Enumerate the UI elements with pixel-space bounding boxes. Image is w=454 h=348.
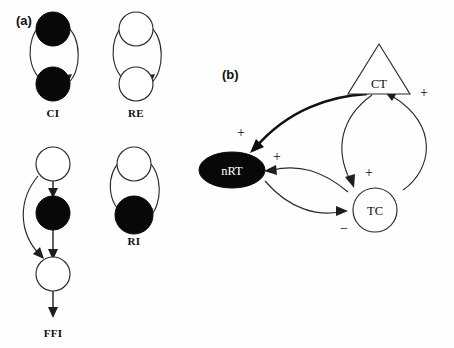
edge-ct-to-nrt — [256, 94, 367, 147]
edge-nrt-to-tc-group: − — [265, 181, 348, 236]
sign-nrt-to-tc: − — [340, 221, 348, 236]
node-re-top — [119, 12, 153, 46]
node-re-bottom — [119, 67, 153, 101]
node-tc: TC — [353, 188, 397, 232]
node-ct: CT — [348, 44, 410, 94]
arrowhead-tc-to-nrt — [264, 165, 277, 175]
motif-ri: RI — [110, 147, 159, 247]
node-ffi-mid — [36, 196, 70, 230]
node-nrt: nRT — [199, 152, 265, 188]
edge-nrt-to-tc — [265, 181, 340, 213]
node-ct-label: CT — [371, 77, 387, 91]
sign-ct-to-nrt: + — [237, 125, 245, 140]
edge-ct-to-tc-group: + — [342, 95, 373, 188]
edge-tc-to-ct — [392, 96, 426, 190]
motif-re: RE — [113, 12, 161, 119]
panel-a: (a) CI RE — [16, 12, 161, 339]
node-ci-bottom — [36, 67, 70, 101]
figure-root: (a) CI RE — [0, 0, 454, 348]
arrowhead-ffi-output — [48, 307, 58, 318]
node-ffi-top — [36, 147, 70, 181]
edge-tc-to-ct-group: + — [385, 85, 428, 190]
panel-a-label: (a) — [16, 13, 32, 28]
edge-tc-to-nrt — [272, 168, 348, 192]
motif-label-ri: RI — [128, 235, 141, 247]
node-ffi-bottom — [36, 257, 70, 291]
node-ci-top — [36, 12, 70, 46]
motif-label-ci: CI — [47, 107, 60, 119]
sign-tc-to-ct: + — [420, 85, 428, 100]
motif-label-re: RE — [128, 107, 144, 119]
panel-b-label: (b) — [222, 67, 239, 82]
motif-ffi: FFI — [23, 147, 70, 339]
node-nrt-label: nRT — [221, 164, 243, 178]
arrowhead-ct-to-tc — [345, 174, 355, 188]
motif-ci: CI — [30, 12, 78, 119]
node-tc-label: TC — [367, 204, 383, 218]
diagram-canvas: (a) CI RE — [0, 0, 454, 348]
node-ri-bottom — [115, 196, 153, 234]
motif-label-ffi: FFI — [44, 327, 63, 339]
sign-tc-to-nrt: + — [273, 149, 281, 164]
panel-b: (b) + + + + — [199, 44, 428, 236]
sign-ct-to-tc: + — [365, 165, 373, 180]
node-ri-top — [117, 147, 151, 181]
edge-tc-to-nrt-group: + — [264, 149, 348, 192]
arrowhead-nrt-to-tc — [336, 206, 348, 216]
